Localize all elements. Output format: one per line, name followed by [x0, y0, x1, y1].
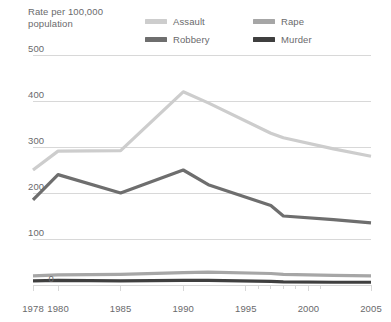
- y-tick-label-200: 200: [28, 181, 54, 192]
- y-tick-label-500: 500: [28, 43, 54, 54]
- x-tick-label-1980: 1980: [47, 303, 69, 314]
- y-tick-label-0: 0: [30, 273, 54, 284]
- x-tick-label-1995: 1995: [235, 303, 257, 314]
- x-tick-label-2005: 2005: [360, 303, 382, 314]
- x-tick-label-2000: 2000: [298, 303, 320, 314]
- y-tick-label-400: 400: [28, 89, 54, 100]
- line-chart: Rate per 100,000 population Assault Rape…: [0, 0, 391, 322]
- y-axis-labels: 0100200300400500: [0, 0, 391, 322]
- y-tick-label-300: 300: [28, 135, 54, 146]
- x-tick-label-1985: 1985: [110, 303, 132, 314]
- x-tick-label-1978: 1978: [22, 303, 44, 314]
- x-tick-label-1990: 1990: [172, 303, 194, 314]
- y-tick-label-100: 100: [28, 227, 54, 238]
